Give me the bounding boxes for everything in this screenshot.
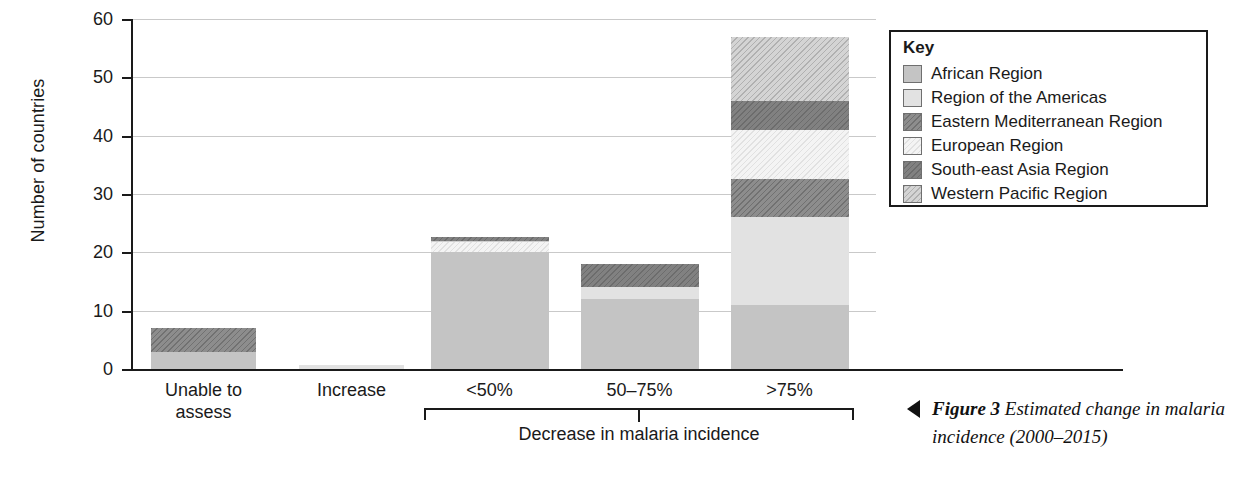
segment-african-region: [581, 299, 699, 369]
segment-african-region: [731, 305, 849, 369]
legend-item-south-east-asia-region[interactable]: South-east Asia Region: [903, 159, 1109, 180]
segment-european-region: [731, 130, 849, 180]
y-tick-label-30: 30: [61, 184, 113, 205]
bar-decrease-lt-50[interactable]: [431, 237, 549, 369]
segment-region-of-the-americas: [731, 217, 849, 305]
y-tick-60: [122, 19, 131, 21]
y-tick-label-60: 60: [61, 9, 113, 30]
caption-left-arrow-icon: [907, 400, 920, 418]
legend-label-european-region: European Region: [931, 136, 1063, 156]
y-tick-40: [122, 136, 131, 138]
legend-swatch-european-region: [903, 137, 922, 155]
segment-region-of-the-americas: [299, 365, 404, 370]
legend-item-european-region[interactable]: European Region: [903, 135, 1063, 156]
legend-item-eastern-mediterranean-region[interactable]: Eastern Mediterranean Region: [903, 111, 1163, 132]
y-tick-50: [122, 77, 131, 79]
y-tick-label-0: 0: [61, 359, 113, 380]
segment-african-region: [431, 252, 549, 369]
legend-label-african-region: African Region: [931, 64, 1043, 84]
segment-european-region: [431, 241, 549, 253]
legend-item-region-of-the-americas[interactable]: Region of the Americas: [903, 87, 1107, 108]
gridline-60: [133, 19, 876, 20]
x-tick-label-unable-to-assess: Unable to assess: [138, 379, 269, 423]
y-tick-label-50: 50: [61, 67, 113, 88]
y-tick-10: [122, 311, 131, 313]
y-tick-30: [122, 194, 131, 196]
segment-south-east-asia-region: [431, 237, 549, 241]
x-tick-label-50-75: 50–75%: [574, 379, 705, 401]
segment-eastern-mediterranean-region: [731, 179, 849, 217]
legend-label-western-pacific-region: Western Pacific Region: [931, 184, 1107, 204]
segment-african-region: [151, 352, 256, 370]
segment-eastern-mediterranean-region: [151, 328, 256, 351]
legend-label-region-of-the-americas: Region of the Americas: [931, 88, 1107, 108]
bar-increase[interactable]: [299, 365, 404, 370]
legend-title: Key: [903, 38, 934, 58]
legend-label-eastern-mediterranean-region: Eastern Mediterranean Region: [931, 112, 1163, 132]
legend-item-african-region[interactable]: African Region: [903, 63, 1043, 84]
bar-decrease-50-75[interactable]: [581, 264, 699, 369]
y-tick-20: [122, 252, 131, 254]
y-tick-label-10: 10: [61, 300, 113, 321]
y-tick-label-40: 40: [61, 125, 113, 146]
figure-number: Figure 3: [932, 398, 1000, 419]
segment-south-east-asia-region: [581, 264, 699, 287]
x-tick-label-lt-50: <50%: [424, 379, 555, 401]
segment-western-pacific-region: [731, 37, 849, 101]
legend-swatch-south-east-asia-region: [903, 161, 922, 179]
y-axis-label: Number of countries: [28, 61, 49, 261]
x-axis-group-caption: Decrease in malaria incidence: [489, 424, 789, 445]
legend-swatch-african-region: [903, 65, 922, 83]
segment-region-of-the-americas: [581, 287, 699, 299]
x-axis-line: [123, 369, 1123, 371]
y-tick-label-20: 20: [61, 242, 113, 263]
bar-decrease-gt-75[interactable]: [731, 37, 849, 370]
legend-swatch-eastern-mediterranean-region: [903, 113, 922, 131]
y-tick-0: [122, 369, 131, 371]
legend-label-south-east-asia-region: South-east Asia Region: [931, 160, 1109, 180]
legend-box: Key African Region Region of the America…: [889, 30, 1208, 207]
plot-area: 60 50 40 30 20 10 0: [131, 19, 876, 369]
x-tick-label-increase: Increase: [286, 379, 417, 401]
segment-south-east-asia-region: [731, 101, 849, 130]
legend-swatch-western-pacific-region: [903, 185, 922, 203]
bar-unable-to-assess[interactable]: [151, 328, 256, 369]
legend-item-western-pacific-region[interactable]: Western Pacific Region: [903, 183, 1107, 204]
chart-figure: Number of countries 60 50 40 30 20 10: [0, 0, 880, 483]
legend-swatch-region-of-the-americas: [903, 89, 922, 107]
figure-caption: Figure 3 Estimated change in malaria inc…: [932, 395, 1242, 451]
x-tick-label-gt-75: >75%: [724, 379, 855, 401]
